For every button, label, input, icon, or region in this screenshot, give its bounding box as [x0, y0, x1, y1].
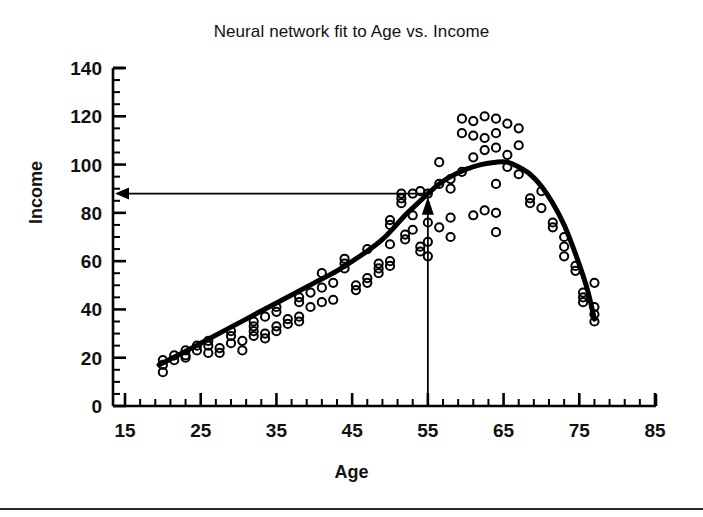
scatter-point	[503, 151, 511, 159]
scatter-point	[238, 346, 246, 354]
x-tick-label-65: 65	[493, 420, 515, 441]
scatter-point	[492, 209, 500, 217]
scatter-point	[458, 129, 466, 137]
scatter-point	[590, 279, 598, 287]
scatter-point	[492, 144, 500, 152]
neural-network-fit-curve	[159, 162, 594, 365]
scatter-point	[481, 112, 489, 120]
scatter-point	[435, 223, 443, 231]
scatter-point	[238, 337, 246, 345]
scatter-point	[515, 124, 523, 132]
y-axis-title: Income	[26, 123, 47, 263]
scatter-point	[469, 117, 477, 125]
y-axis-tick-labels: 020406080100120140	[70, 58, 102, 417]
income-88-readout	[115, 188, 428, 200]
scatter-point	[446, 214, 454, 222]
x-tick-label-15: 15	[114, 420, 136, 441]
footer-divider	[0, 508, 703, 510]
scatter-point	[469, 153, 477, 161]
scatter-point	[329, 296, 337, 304]
scatter-point	[329, 279, 337, 287]
x-axis-title: Age	[0, 462, 703, 483]
scatter-point	[409, 226, 417, 234]
scatter-point	[481, 134, 489, 142]
scatter-point	[446, 185, 454, 193]
x-tick-label-45: 45	[342, 420, 364, 441]
scatter-point	[318, 284, 326, 292]
x-axis-major-ticks	[125, 393, 655, 406]
x-tick-label-25: 25	[190, 420, 212, 441]
scatter-point	[469, 211, 477, 219]
y-tick-label-20: 20	[81, 348, 102, 369]
scatter-point	[435, 158, 443, 166]
x-tick-label-55: 55	[417, 420, 439, 441]
x-tick-label-85: 85	[644, 420, 666, 441]
x-tick-label-75: 75	[569, 420, 591, 441]
scatter-point	[261, 313, 269, 321]
scatter-point	[481, 206, 489, 214]
scatter-point	[503, 119, 511, 127]
scatter-plot-canvas: 020406080100120140 1525354555657585	[0, 0, 703, 517]
scatter-point	[446, 233, 454, 241]
age-55-marker	[422, 197, 434, 406]
scatter-point	[469, 132, 477, 140]
scatter-point	[492, 228, 500, 236]
scatter-point	[386, 240, 394, 248]
scatter-point	[481, 146, 489, 154]
scatter-point	[560, 252, 568, 260]
y-tick-label-0: 0	[91, 396, 102, 417]
x-tick-label-35: 35	[266, 420, 288, 441]
scatter-point	[318, 298, 326, 306]
scatter-point	[492, 180, 500, 188]
scatter-point	[458, 115, 466, 123]
y-tick-label-60: 60	[81, 251, 102, 272]
scatter-point	[537, 204, 545, 212]
scatter-point	[306, 288, 314, 296]
y-tick-label-140: 140	[70, 58, 102, 79]
scatter-point	[492, 129, 500, 137]
y-tick-label-120: 120	[70, 106, 102, 127]
chart-figure: Neural network fit to Age vs. Income 020…	[0, 0, 703, 517]
scatter-point	[560, 243, 568, 251]
scatter-point	[306, 303, 314, 311]
x-axis-tick-labels: 1525354555657585	[114, 420, 666, 441]
y-tick-label-100: 100	[70, 155, 102, 176]
y-tick-label-40: 40	[81, 299, 102, 320]
y-tick-label-80: 80	[81, 203, 102, 224]
scatter-point	[492, 115, 500, 123]
scatter-point	[515, 141, 523, 149]
